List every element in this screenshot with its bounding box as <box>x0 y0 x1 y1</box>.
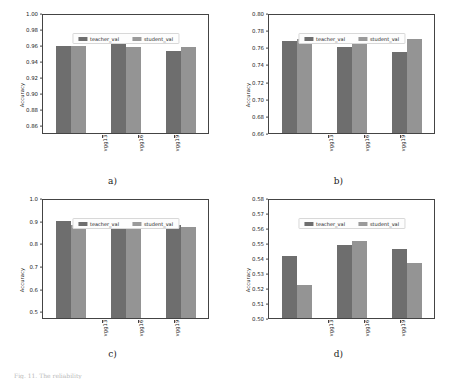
x-tick-label-vgg19: vgg19 <box>174 320 218 337</box>
subplot-c: Accuracy 1.00.90.80.70.60.5 vgg13vgg16vg… <box>0 185 225 375</box>
x-tick-mark <box>174 135 175 138</box>
y-tick-label: 0.68 <box>252 114 264 120</box>
x-tick-label-vgg13: vgg13 <box>103 135 147 152</box>
plot-area: vgg13vgg16vgg19 teacher_val student_val <box>268 14 435 134</box>
legend-item-teacher: teacher_val <box>78 36 119 42</box>
y-tick-label: 0.57 <box>252 211 264 217</box>
legend-item-student: student_val <box>132 221 173 227</box>
x-tick-label-vgg16: vgg16 <box>365 135 409 152</box>
x-tick-label-vgg13: vgg13 <box>329 135 373 152</box>
legend-label-teacher: teacher_val <box>90 221 119 227</box>
bar-teacher-vgg13 <box>282 41 297 133</box>
legend-label-teacher: teacher_val <box>316 221 345 227</box>
legend-label-student: student_val <box>370 36 399 42</box>
legend-label-teacher: teacher_val <box>90 36 119 42</box>
subplot-caption: d) <box>226 349 451 359</box>
subplot-b: Accuracy 0.800.780.760.740.720.700.680.6… <box>226 0 451 190</box>
bar-teacher-vgg13 <box>56 221 71 318</box>
y-tick-label: 0.5 <box>29 309 38 315</box>
bar-teacher-vgg13 <box>282 256 297 318</box>
legend-swatch-student-icon <box>358 37 367 41</box>
y-tick-label: 0.90 <box>26 91 38 97</box>
legend-item-student: student_val <box>358 221 399 227</box>
plot-area: vgg13vgg16vgg19 teacher_val student_val <box>268 199 435 319</box>
y-tick-label: 0.92 <box>26 75 38 81</box>
bar-student-vgg19 <box>407 263 422 318</box>
legend-item-student: student_val <box>358 36 399 42</box>
y-tick-label: 0.7 <box>29 264 38 270</box>
legend-item-teacher: teacher_val <box>304 221 345 227</box>
plot-area: vgg13vgg16vgg19 teacher_val student_val <box>42 14 209 134</box>
y-axis-ticks: 0.800.780.760.740.720.700.680.66 <box>226 14 268 134</box>
y-tick-label: 0.52 <box>252 286 264 292</box>
bar-teacher-vgg19 <box>166 51 181 133</box>
x-tick-label-vgg16: vgg16 <box>365 320 409 337</box>
x-tick-cell: vgg19 <box>156 320 192 372</box>
x-tick-label-vgg16: vgg16 <box>139 135 183 152</box>
y-tick-label: 0.88 <box>26 107 38 113</box>
x-tick-cell: vgg16 <box>347 320 383 372</box>
plot-area: vgg13vgg16vgg19 teacher_val student_val <box>42 199 209 319</box>
bar-teacher-vgg19 <box>392 249 407 318</box>
x-tick-mark <box>400 320 401 323</box>
legend-label-student: student_val <box>144 221 173 227</box>
y-tick-label: 0.50 <box>252 316 264 322</box>
bar-student-vgg16 <box>126 47 141 133</box>
y-tick-label: 0.66 <box>252 131 264 137</box>
figure-footnote: Fig. 11. The reliability <box>14 372 204 379</box>
x-tick-mark <box>102 320 103 323</box>
x-tick-mark <box>364 320 365 323</box>
y-tick-label: 0.54 <box>252 256 264 262</box>
bar-teacher-vgg16 <box>337 245 352 318</box>
bar-student-vgg13 <box>297 39 312 133</box>
y-tick-label: 0.74 <box>252 62 264 68</box>
bar-student-vgg13 <box>71 225 86 318</box>
subplot-d: Accuracy 0.580.570.560.550.540.530.520.5… <box>226 185 451 375</box>
y-tick-label: 0.96 <box>26 43 38 49</box>
y-tick-label: 0.72 <box>252 80 264 86</box>
y-tick-label: 0.94 <box>26 59 38 65</box>
x-tick-cell: vgg19 <box>382 320 418 372</box>
figure-bar-chart-grid: Accuracy 1.000.980.960.940.920.900.880.8… <box>0 0 451 380</box>
x-tick-mark <box>102 135 103 138</box>
legend-swatch-student-icon <box>132 37 141 41</box>
bar-student-vgg19 <box>181 227 196 318</box>
bar-student-vgg16 <box>352 41 367 133</box>
y-tick-label: 0.98 <box>26 27 38 33</box>
y-tick-label: 0.9 <box>29 219 38 225</box>
legend-item-teacher: teacher_val <box>78 221 119 227</box>
y-tick-label: 0.58 <box>252 196 264 202</box>
y-tick-label: 1.00 <box>26 11 38 17</box>
x-tick-mark <box>138 320 139 323</box>
legend-label-student: student_val <box>144 36 173 42</box>
x-tick-cell: vgg16 <box>121 320 157 372</box>
y-tick-label: 0.6 <box>29 287 38 293</box>
legend: teacher_val student_val <box>298 33 405 44</box>
bar-teacher-vgg16 <box>337 47 352 133</box>
bar-student-vgg13 <box>71 46 86 133</box>
y-tick-label: 0.80 <box>252 11 264 17</box>
y-tick-label: 0.70 <box>252 97 264 103</box>
y-axis-ticks: 0.580.570.560.550.540.530.520.510.50 <box>226 199 268 319</box>
bar-student-vgg19 <box>181 47 196 133</box>
x-tick-cell: vgg13 <box>85 320 121 372</box>
legend: teacher_val student_val <box>72 218 179 229</box>
bar-student-vgg19 <box>407 39 422 133</box>
bar-student-vgg13 <box>297 285 312 318</box>
legend-swatch-teacher-icon <box>78 37 87 41</box>
y-tick-label: 0.51 <box>252 301 264 307</box>
y-axis-ticks: 1.00.90.80.70.60.5 <box>0 199 42 319</box>
y-tick-label: 0.86 <box>26 123 38 129</box>
x-tick-row: vgg13vgg16vgg19 <box>85 320 192 372</box>
bar-student-vgg16 <box>126 225 141 318</box>
y-axis-ticks: 1.000.980.960.940.920.900.880.86 <box>0 14 42 134</box>
bar-teacher-vgg16 <box>111 44 126 133</box>
legend-swatch-student-icon <box>132 222 141 226</box>
subplot-a: Accuracy 1.000.980.960.940.920.900.880.8… <box>0 0 225 190</box>
legend-item-student: student_val <box>132 36 173 42</box>
bar-teacher-vgg16 <box>111 222 126 318</box>
legend-swatch-teacher-icon <box>304 37 313 41</box>
y-tick-label: 0.55 <box>252 241 264 247</box>
subplot-caption: c) <box>0 349 225 359</box>
x-tick-label-vgg13: vgg13 <box>329 320 373 337</box>
